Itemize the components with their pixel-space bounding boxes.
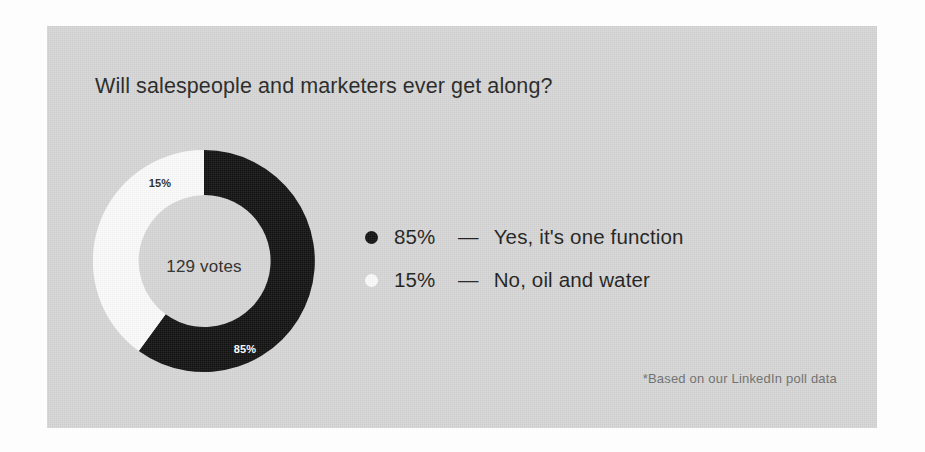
legend-bullet-icon-no (365, 274, 378, 287)
legend-bullet-icon-yes (365, 231, 378, 244)
donut-chart: 15% 85% 129 votes (93, 150, 315, 372)
legend-item-yes[interactable]: 85% — Yes, it's one function (365, 225, 684, 249)
donut-slice-label-no: 15% (149, 177, 172, 189)
chart-legend: 85% — Yes, it's one function 15% — No, o… (365, 225, 684, 292)
legend-percent-no: 15% (394, 268, 452, 292)
legend-separator-yes: — (458, 225, 479, 249)
screenshot-stage: Will salespeople and marketers ever get … (0, 0, 925, 452)
legend-percent-yes: 85% (394, 225, 452, 249)
legend-item-no[interactable]: 15% — No, oil and water (365, 268, 684, 292)
legend-separator-no: — (458, 268, 479, 292)
legend-label-no: No, oil and water (494, 268, 650, 292)
poll-result-card: Will salespeople and marketers ever get … (47, 26, 877, 428)
donut-slice-label-yes: 85% (234, 343, 257, 355)
donut-center-total: 129 votes (166, 257, 242, 276)
legend-label-yes: Yes, it's one function (494, 225, 684, 249)
donut-chart-svg: 15% 85% 129 votes (93, 150, 315, 372)
page-title: Will salespeople and marketers ever get … (95, 74, 553, 99)
chart-footnote: *Based on our LinkedIn poll data (643, 371, 837, 386)
